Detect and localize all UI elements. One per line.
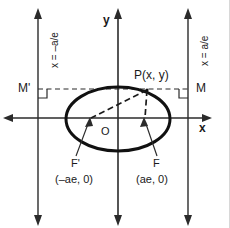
directrix-right-label: x = a/e [200, 36, 210, 66]
figure-canvas [0, 0, 230, 228]
y-axis-arrow-up [114, 8, 122, 19]
figure-right-border [229, 0, 230, 228]
directrix-right-line [184, 8, 192, 226]
focal-radius-to-right-focus [145, 90, 147, 118]
right-angle-marker-right [179, 89, 188, 98]
directrix-left-label: x = –a/e [50, 32, 60, 68]
focus-right-coords: (ae, 0) [136, 174, 168, 185]
x-axis-arrow-left [3, 114, 13, 122]
point-p-label: P(x, y) [134, 69, 169, 81]
focal-radius-to-left-focus [91, 90, 147, 118]
focus-right-leader [140, 117, 157, 156]
origin-label: O [101, 126, 110, 137]
foot-right-label: M [196, 82, 206, 94]
focus-left-coords: (–ae, 0) [55, 174, 93, 185]
directrix-left-arrow-up [34, 8, 42, 19]
focus-left-label: F' [71, 158, 80, 169]
directrix-right-arrow-up [184, 8, 192, 19]
directrix-left-arrow-down [34, 215, 42, 226]
y-axis [114, 8, 122, 226]
right-angle-marker-left [38, 89, 47, 98]
y-axis-label: y [103, 14, 110, 26]
point-p-marker [145, 88, 148, 91]
foot-left-label: M' [18, 82, 30, 94]
x-axis-label: x [199, 122, 206, 134]
y-axis-arrow-down [114, 215, 122, 226]
directrix-left-line [34, 8, 42, 226]
focus-right-label: F [153, 158, 160, 169]
focus-left-leader [76, 117, 93, 156]
directrix-right-arrow-down [184, 215, 192, 226]
x-axis [3, 114, 212, 122]
ellipse-figure: y x O x = –a/e x = a/e M' M P(x, y) F' (… [0, 0, 230, 228]
